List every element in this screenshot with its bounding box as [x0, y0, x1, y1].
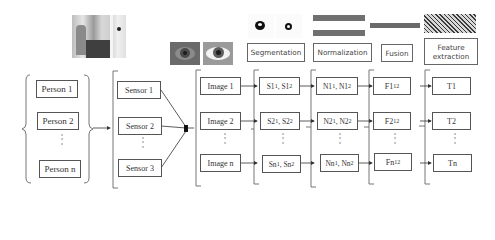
image-n-box: Image n — [200, 154, 241, 172]
segmentation-1-box: S11, S12 — [259, 77, 300, 95]
fusion-2-a: F2 — [385, 117, 393, 126]
seg-n-a-sub: 1 — [277, 161, 280, 167]
seg-n-a: Sn — [269, 160, 277, 169]
template-2-label: T2 — [447, 117, 456, 126]
person-ellipsis: ⋮ — [56, 137, 62, 153]
fusion-n-a-sub: 12 — [394, 159, 400, 165]
seg-2-a-sub: 1 — [275, 118, 278, 124]
seg-n-b: Sn — [283, 160, 291, 169]
norm-n-b: Nn — [341, 159, 350, 168]
seg-1-a-sub: 1 — [275, 83, 278, 89]
person-n-box: Person n — [39, 160, 81, 178]
seg-2-a: S2 — [267, 117, 275, 126]
image-2-label: Image 2 — [208, 117, 234, 126]
norm-2-a: N2 — [323, 117, 332, 126]
norm-1-b: N1 — [339, 82, 348, 91]
fusion-2-box: F212 — [373, 112, 411, 130]
seg-1-b: S1 — [281, 82, 289, 91]
seg-1-a: S1 — [267, 82, 275, 91]
seg-n-b-sub: 2 — [291, 161, 294, 167]
norm-1-a-sub: 1 — [332, 83, 335, 89]
fusion-2-a-sub: 12 — [393, 118, 399, 124]
image-1-box: Image 1 — [200, 77, 241, 95]
normalization-2-box: N21, N22 — [317, 112, 358, 130]
norm-n-a: Nn — [325, 159, 334, 168]
image-2-box: Image 2 — [200, 112, 241, 130]
fusion-1-a-sub: 12 — [393, 83, 399, 89]
template-1-label: T1 — [447, 82, 456, 91]
person-2-label: Person 2 — [42, 116, 73, 126]
image-n-label: Image n — [208, 159, 234, 168]
template-1-box: T1 — [432, 77, 471, 95]
person-1-label: Person 1 — [41, 84, 72, 94]
person-1-box: Person 1 — [36, 80, 78, 98]
sensor-1-box: Sensor 1 — [117, 81, 161, 99]
norm-n-a-sub: 1 — [335, 160, 338, 166]
norm-2-b: N2 — [339, 117, 348, 126]
segmentation-2-box: S21, S22 — [260, 112, 300, 130]
fusion-1-a: F1 — [385, 82, 393, 91]
seg-2-b: S2 — [282, 117, 290, 126]
norm-1-b-sub: 2 — [348, 83, 351, 89]
sensor-1-label: Sensor 1 — [125, 86, 153, 95]
fusion-1-box: F112 — [373, 77, 411, 95]
image-ellipsis: ⋮ — [219, 136, 225, 152]
norm-2-b-sub: 2 — [349, 118, 352, 124]
template-n-box: Tn — [433, 154, 472, 172]
norm-n-b-sub: 2 — [351, 160, 354, 166]
person-n-label: Person n — [44, 164, 75, 174]
normalization-n-box: Nn1, Nn2 — [320, 154, 359, 172]
sensor-ellipsis: ⋮ — [137, 140, 143, 156]
sensor-3-box: Sensor 3 — [118, 159, 162, 177]
person-2-box: Person 2 — [37, 112, 79, 130]
template-2-box: T2 — [432, 112, 471, 130]
normalization-1-box: N11, N12 — [316, 77, 358, 95]
fusion-n-a: Fn — [386, 158, 394, 167]
template-ellipsis: ⋮ — [449, 136, 455, 152]
sensor-2-box: Sensor 2 — [118, 117, 162, 135]
segmentation-ellipsis: ⋮ — [277, 136, 283, 152]
seg-1-b-sub: 2 — [289, 83, 292, 89]
template-n-label: Tn — [448, 159, 457, 168]
seg-2-b-sub: 2 — [290, 118, 293, 124]
sensor-3-label: Sensor 3 — [126, 164, 154, 173]
sensor-2-label: Sensor 2 — [126, 122, 154, 131]
sensor-junction — [184, 125, 188, 132]
fusion-ellipsis: ⋮ — [389, 136, 395, 152]
norm-1-a: N1 — [323, 82, 332, 91]
image-1-label: Image 1 — [208, 82, 234, 91]
normalization-ellipsis: ⋮ — [334, 136, 340, 152]
norm-2-a-sub: 1 — [333, 118, 336, 124]
fusion-n-box: Fn12 — [374, 153, 412, 171]
segmentation-n-box: Sn1, Sn2 — [262, 155, 301, 173]
